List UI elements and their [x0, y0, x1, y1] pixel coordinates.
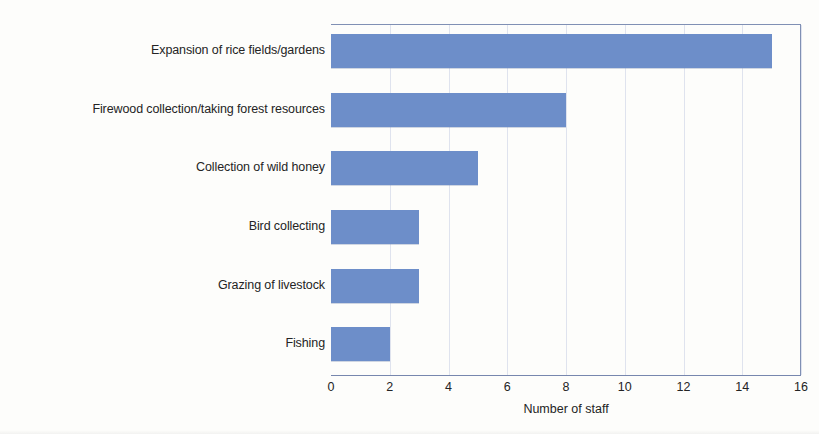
x-tick-label: 4: [445, 379, 452, 395]
bar: [331, 151, 478, 185]
category-label: Expansion of rice fields/gardens: [0, 43, 325, 57]
x-tick-label: 12: [677, 379, 691, 395]
x-tick-label: 14: [735, 379, 749, 395]
plot-area: [331, 24, 801, 376]
x-tick-label: 16: [794, 379, 808, 395]
bar: [331, 93, 566, 127]
x-axis-title: Number of staff: [331, 402, 801, 416]
bar: [331, 34, 772, 68]
bars-layer: [331, 25, 800, 375]
category-label: Fishing: [0, 336, 325, 350]
x-axis-tick-labels: 0246810121416: [331, 379, 801, 397]
bar: [331, 269, 419, 303]
bar: [331, 210, 419, 244]
x-tick-label: 0: [328, 379, 335, 395]
category-label: Grazing of livestock: [0, 278, 325, 292]
x-tick-label: 8: [563, 379, 570, 395]
scan-edge-artifact: [0, 430, 819, 434]
category-label: Bird collecting: [0, 219, 325, 233]
category-label: Firewood collection/taking forest resour…: [0, 102, 325, 116]
x-tick-label: 2: [386, 379, 393, 395]
x-tick-label: 6: [504, 379, 511, 395]
bar-chart: Expansion of rice fields/gardensFirewood…: [0, 0, 819, 434]
x-tick-label: 10: [618, 379, 632, 395]
category-axis-labels: Expansion of rice fields/gardensFirewood…: [0, 24, 325, 376]
bar: [331, 327, 390, 361]
category-label: Collection of wild honey: [0, 160, 325, 174]
gridline: [801, 25, 802, 375]
